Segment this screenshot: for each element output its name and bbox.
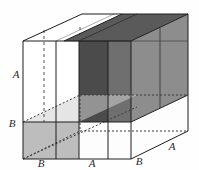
label-a-front-middle: A	[88, 157, 96, 169]
label-b-left: B	[9, 117, 16, 129]
label-a-left: A	[12, 68, 20, 80]
bottom-slab-light	[23, 122, 79, 159]
label-b-front-first: B	[38, 157, 45, 169]
box-diagram-svg: A B B A B A	[0, 0, 199, 170]
label-a-right-depth: A	[168, 140, 176, 152]
bottom-front-white	[79, 122, 131, 159]
geometry-figure: A B B A B A	[0, 0, 199, 170]
label-b-front-right: B	[136, 155, 143, 167]
front-face-dark-slab-right	[108, 41, 131, 122]
